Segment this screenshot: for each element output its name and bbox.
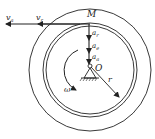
label-v-relative: vr (36, 13, 44, 23)
inner-circle-outer (43, 23, 137, 117)
label-O: O (95, 63, 103, 73)
label-r: r (108, 75, 113, 84)
inner-circle-inner (46, 26, 134, 114)
outer-circle (29, 9, 151, 131)
diagram-canvas: M O r ω va vr ar ae aa (0, 0, 155, 139)
omega-arrow (64, 50, 78, 90)
label-omega: ω (64, 85, 71, 94)
label-a-relative: ar (92, 29, 99, 38)
label-a-transport: ae (92, 42, 99, 51)
label-v-absolute: va (6, 13, 14, 23)
label-M: M (86, 9, 97, 19)
label-a-absolute: aa (92, 53, 99, 62)
